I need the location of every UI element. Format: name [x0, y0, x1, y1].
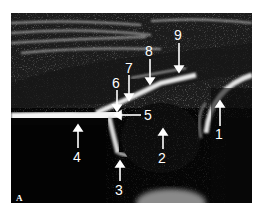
label-4: 4 — [73, 150, 81, 164]
label-5: 5 — [144, 108, 152, 122]
ultrasound-scan — [11, 13, 252, 203]
label-1-femoral-head: 1 — [215, 127, 223, 141]
label-6: 6 — [112, 76, 120, 90]
label-9: 9 — [174, 28, 182, 42]
ultrasound-image: 1 2 3 4 5 6 7 8 9 A — [11, 13, 252, 203]
label-2: 2 — [158, 151, 166, 165]
label-3: 3 — [115, 183, 123, 197]
label-7: 7 — [125, 61, 133, 75]
label-8: 8 — [145, 44, 153, 58]
panel-letter: A — [16, 193, 23, 203]
